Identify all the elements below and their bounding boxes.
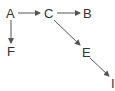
node-b: B [83, 6, 92, 21]
node-e: E [82, 45, 91, 60]
edge-e-i [90, 58, 109, 76]
node-i: I [111, 76, 115, 91]
node-a: A [6, 6, 15, 21]
node-c: C [44, 6, 53, 21]
node-f: F [7, 44, 15, 59]
diagram-canvas: A C B F E I [0, 0, 115, 91]
edge-c-e [54, 20, 80, 45]
